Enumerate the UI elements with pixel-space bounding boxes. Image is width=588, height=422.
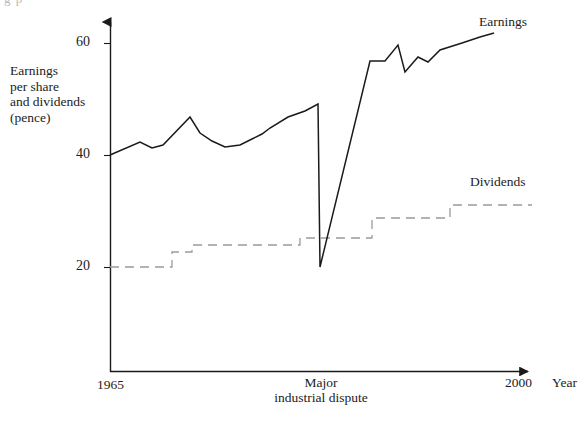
y-axis-title-line-1: Earnings — [10, 63, 58, 78]
y-tick-label-40: 40 — [76, 146, 90, 162]
x-tick-label-start: 1965 — [97, 377, 124, 393]
dividends-series-label: Dividends — [470, 174, 526, 190]
earnings-series-label: Earnings — [479, 14, 527, 30]
x-axis-title: Year — [552, 375, 577, 391]
y-axis-title-line-3: and dividends — [10, 94, 85, 109]
x-tick-label-end: 2000 — [505, 375, 532, 391]
annotation-major-industrial-dispute: Majorindustrial dispute — [265, 375, 377, 405]
earnings-series-line — [110, 33, 494, 267]
y-axis-title-line-4: (pence) — [10, 110, 50, 125]
y-axis-title-line-2: per share — [10, 79, 59, 94]
annotation-line-2: industrial dispute — [274, 390, 367, 405]
y-tick-label-20: 20 — [76, 258, 90, 274]
annotation-line-1: Major — [305, 375, 338, 390]
chart-figure: g p Earningsper shareand dividends(pence… — [0, 0, 588, 422]
y-axis-title: Earningsper shareand dividends(pence) — [10, 63, 85, 125]
chart-canvas — [0, 0, 588, 422]
y-tick-label-60: 60 — [76, 34, 90, 50]
dividends-series-line — [110, 205, 532, 267]
